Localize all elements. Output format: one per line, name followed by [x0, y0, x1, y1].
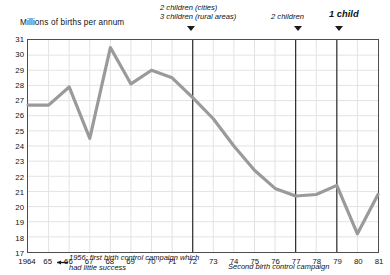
policy-marker-1979-arrow-icon: [335, 26, 343, 31]
x-tick-73: 73: [209, 257, 218, 266]
series-births: [28, 48, 378, 234]
x-tick-67: 67: [85, 257, 94, 266]
x-axis-tick-labels: 19646566676869707172737475767778798081: [27, 257, 379, 271]
births-line-chart: Millions of births per annum 2 children …: [0, 0, 390, 275]
x-tick-79: 79: [333, 257, 342, 266]
y-tick-18: 18: [2, 233, 24, 242]
y-tick-26: 26: [2, 111, 24, 120]
policy-marker-1977-line1: 2 children: [271, 12, 304, 21]
y-tick-29: 29: [2, 65, 24, 74]
x-tick-80: 80: [354, 257, 363, 266]
x-tick-75: 75: [250, 257, 259, 266]
births-series-line: [28, 40, 378, 252]
policy-marker-1979-line1: 1 child: [329, 9, 359, 18]
y-tick-22: 22: [2, 172, 24, 181]
y-tick-30: 30: [2, 50, 24, 59]
policy-marker-1977-label: 2 children: [271, 12, 304, 21]
x-tick-68: 68: [105, 257, 114, 266]
x-tick-70: 70: [147, 257, 156, 266]
policy-marker-1979-label: 1 child: [329, 9, 359, 18]
x-tick-71: 71: [168, 257, 177, 266]
x-tick-72: 72: [188, 257, 197, 266]
y-axis-tick-labels: 313029282726252423222120191817: [0, 39, 24, 253]
x-tick-74: 74: [230, 257, 239, 266]
x-tick-1964: 1964: [18, 257, 35, 266]
plot-area: 1956: first birth control campaign which…: [27, 39, 379, 253]
y-tick-20: 20: [2, 203, 24, 212]
policy-marker-1972-line1: 2 children (cities): [160, 3, 236, 12]
x-tick-65: 65: [43, 257, 52, 266]
x-tick-77: 77: [292, 257, 301, 266]
x-tick-76: 76: [271, 257, 280, 266]
x-tick-66: 66: [64, 257, 73, 266]
policy-marker-1972-line2: 3 children (rural areas): [160, 12, 236, 21]
y-tick-31: 31: [2, 35, 24, 44]
y-axis-title: Millions of births per annum: [20, 18, 124, 27]
y-tick-28: 28: [2, 80, 24, 89]
x-tick-81: 81: [375, 257, 384, 266]
x-tick-69: 69: [126, 257, 135, 266]
y-tick-25: 25: [2, 126, 24, 135]
policy-marker-1972-label: 2 children (cities) 3 children (rural ar…: [160, 3, 236, 21]
y-tick-23: 23: [2, 157, 24, 166]
policy-marker-1972-arrow-icon: [187, 26, 195, 31]
x-tick-78: 78: [313, 257, 322, 266]
y-tick-24: 24: [2, 142, 24, 151]
y-tick-19: 19: [2, 218, 24, 227]
policy-marker-1977-arrow-icon: [294, 26, 302, 31]
y-tick-27: 27: [2, 96, 24, 105]
y-tick-21: 21: [2, 187, 24, 196]
